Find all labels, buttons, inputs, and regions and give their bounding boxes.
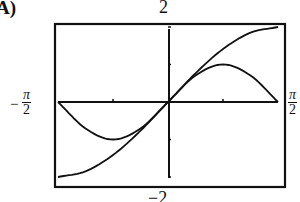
plot-area [0, 0, 300, 202]
